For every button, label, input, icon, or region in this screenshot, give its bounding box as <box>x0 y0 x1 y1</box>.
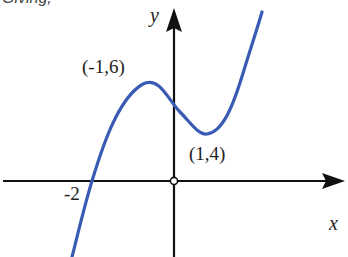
local-max-label: (-1,6) <box>82 56 125 78</box>
origin-marker <box>170 177 177 184</box>
cubic-graph: y x (-1,6) (1,4) -2 <box>0 0 348 257</box>
y-axis-label: y <box>148 4 159 27</box>
cubic-curve <box>72 12 262 257</box>
root-label: -2 <box>64 183 80 204</box>
local-min-label: (1,4) <box>189 143 225 165</box>
x-axis-label: x <box>328 212 338 234</box>
